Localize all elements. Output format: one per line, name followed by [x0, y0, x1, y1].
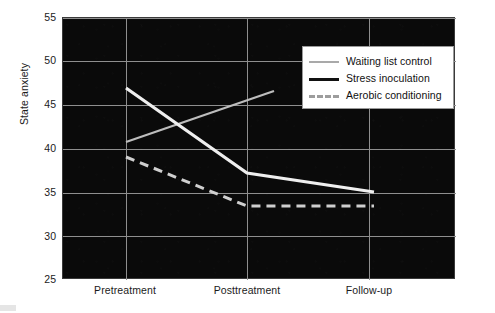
- legend-entry-aerobic-conditioning: Aerobic conditioning: [309, 86, 447, 103]
- y-tick-label: 40: [30, 143, 56, 154]
- chart-figure: State anxiety 55 50 45 40 35 30 25: [0, 0, 495, 313]
- page-artifact: [0, 305, 16, 311]
- y-tick-label: 55: [30, 12, 56, 23]
- legend-entry-waiting-list-control: Waiting list control: [309, 52, 447, 69]
- legend-label: Stress inoculation: [346, 72, 430, 84]
- x-tick-label: Posttreatment: [214, 284, 281, 296]
- series-line-waiting-list-control: [126, 91, 274, 142]
- y-tick-label: 45: [30, 99, 56, 110]
- chart-legend: Waiting list control Stress inoculation …: [302, 46, 454, 109]
- y-tick-label: 35: [30, 187, 56, 198]
- x-tick-label: Pretreatment: [94, 284, 156, 296]
- y-tick-label: 30: [30, 231, 56, 242]
- legend-label: Waiting list control: [346, 55, 432, 67]
- series-line-aerobic-conditioning: [126, 157, 374, 206]
- x-axis-tick-labels: Pretreatment Posttreatment Follow-up: [0, 284, 495, 302]
- y-axis-tick-labels: 55 50 45 40 35 30 25: [24, 0, 56, 313]
- thin-line-icon: [309, 55, 339, 67]
- dashed-line-icon: [309, 89, 339, 101]
- legend-entry-stress-inoculation: Stress inoculation: [309, 69, 447, 86]
- y-tick-label: 50: [30, 55, 56, 66]
- legend-label: Aerobic conditioning: [346, 89, 442, 101]
- x-tick-label: Follow-up: [346, 284, 392, 296]
- thick-line-icon: [309, 72, 339, 84]
